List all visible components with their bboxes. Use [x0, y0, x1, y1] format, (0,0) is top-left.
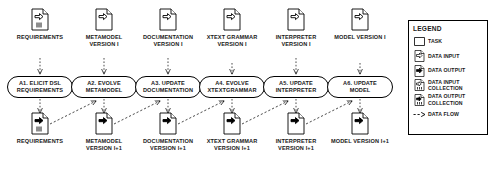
data-output-model[interactable]: MODEL VERSION i+1 — [329, 112, 391, 145]
data-output-metamodel[interactable]: METAMODEL VERSION i+1 — [73, 112, 135, 152]
data-output-label: DOCUMENTATION VERSION i+1 — [137, 138, 199, 152]
legend-label: DATA INPUT — [426, 53, 459, 59]
data-output-label: REQUIREMENTS — [9, 138, 71, 145]
data-input-label: XTEXT GRAMMAR VERSION i — [201, 34, 263, 48]
data-output-interpreter[interactable]: INTERPRETER VERSION i+1 — [265, 112, 327, 152]
data-input-icon — [137, 8, 199, 32]
task-a6-update-model[interactable]: A6. UPDATE MODEL — [327, 76, 393, 98]
input-to-task-flows — [40, 58, 360, 74]
data-input-icon — [201, 8, 263, 32]
data-input-icon — [413, 50, 426, 63]
legend-label: TASK — [426, 38, 442, 44]
task-label-line1: A4. EVOLVE — [215, 80, 249, 87]
data-output-collection-icon — [413, 93, 426, 106]
task-label-line2: INTERPRETER — [276, 87, 317, 94]
legend-label: DATA FLOW — [426, 111, 459, 117]
data-output-collection-icon — [9, 112, 71, 136]
task-a4-evolve-xtextgrammar[interactable]: A4. EVOLVE XTEXTGRAMMAR — [199, 76, 265, 98]
task-to-output-flows — [40, 99, 360, 113]
task-label-line1: A6. UPDATE — [343, 80, 377, 87]
data-input-label: METAMODEL VERSION i — [73, 34, 135, 48]
task-label-line2: XTEXTGRAMMAR — [207, 87, 256, 94]
task-label-line2: MODEL — [350, 87, 371, 94]
data-output-label: INTERPRETER VERSION i+1 — [265, 138, 327, 152]
task-label-line1: A1. ELICIT DSL — [19, 80, 61, 87]
data-input-model[interactable]: MODEL VERSION i — [329, 8, 391, 41]
data-output-label: MODEL VERSION i+1 — [329, 138, 391, 145]
task-a5-update-interpreter[interactable]: A5. UPDATE INTERPRETER — [263, 76, 329, 98]
data-output-documentation[interactable]: DOCUMENTATION VERSION i+1 — [137, 112, 199, 152]
legend-label: DATA OUTPUT — [426, 67, 465, 73]
data-output-icon — [201, 112, 263, 136]
legend-panel: LEGEND TASK DATA INPUT DATA OUTPUT — [408, 20, 488, 135]
task-icon — [413, 35, 426, 48]
data-output-icon — [137, 112, 199, 136]
data-input-icon — [265, 8, 327, 32]
data-input-label: MODEL VERSION i — [329, 34, 391, 41]
legend-title: LEGEND — [413, 25, 484, 32]
data-input-label: DOCUMENTATION VERSION i — [137, 34, 199, 48]
data-input-collection-icon — [9, 8, 71, 32]
task-a3-update-documentation[interactable]: A3. UPDATE DOCUMENTATION — [135, 76, 201, 98]
data-input-label: INTERPRETER VERSION i — [265, 34, 327, 48]
data-input-interpreter[interactable]: INTERPRETER VERSION i — [265, 8, 327, 48]
task-label-line1: A3. UPDATE — [151, 80, 185, 87]
task-label-line1: A5. UPDATE — [279, 80, 313, 87]
data-output-label: XTEXT GRAMMAR VERSION i+1 — [201, 138, 263, 152]
legend-label: DATA OUTPUT COLLECTION — [426, 93, 484, 105]
data-input-collection-icon — [413, 79, 426, 92]
legend-label: DATA INPUT COLLECTION — [426, 79, 484, 91]
legend-item-data-output: DATA OUTPUT — [413, 64, 484, 77]
data-output-xtext-grammar[interactable]: XTEXT GRAMMAR VERSION i+1 — [201, 112, 263, 152]
data-output-requirements[interactable]: REQUIREMENTS — [9, 112, 71, 145]
data-input-documentation[interactable]: DOCUMENTATION VERSION i — [137, 8, 199, 48]
data-output-label: METAMODEL VERSION i+1 — [73, 138, 135, 152]
data-input-xtext-grammar[interactable]: XTEXT GRAMMAR VERSION i — [201, 8, 263, 48]
data-output-icon — [329, 112, 391, 136]
task-label-line2: METAMODEL — [86, 87, 123, 94]
data-input-icon — [73, 8, 135, 32]
legend-item-task: TASK — [413, 35, 484, 48]
data-input-requirements[interactable]: REQUIREMENTS — [9, 8, 71, 41]
data-output-icon — [413, 64, 426, 77]
data-input-icon — [329, 8, 391, 32]
data-input-label: REQUIREMENTS — [9, 34, 71, 41]
task-label-line2: REQUIREMENTS — [17, 87, 63, 94]
legend-item-data-input: DATA INPUT — [413, 50, 484, 63]
task-a1-elicit-dsl-requirements[interactable]: A1. ELICIT DSL REQUIREMENTS — [7, 76, 73, 98]
legend-item-data-input-collection: DATA INPUT COLLECTION — [413, 79, 484, 92]
data-flow-icon — [413, 108, 426, 121]
task-a2-evolve-metamodel[interactable]: A2. EVOLVE METAMODEL — [71, 76, 137, 98]
data-input-metamodel[interactable]: METAMODEL VERSION i — [73, 8, 135, 48]
data-output-icon — [73, 112, 135, 136]
task-label-line2: DOCUMENTATION — [143, 87, 193, 94]
data-output-icon — [265, 112, 327, 136]
task-label-line1: A2. EVOLVE — [87, 80, 121, 87]
legend-item-data-output-collection: DATA OUTPUT COLLECTION — [413, 93, 484, 106]
legend-item-data-flow: DATA FLOW — [413, 108, 484, 121]
